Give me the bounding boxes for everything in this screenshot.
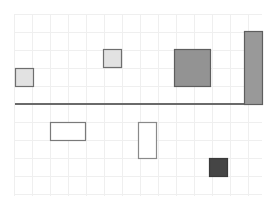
gray-bar-tall	[245, 32, 263, 105]
light-square-mid	[104, 50, 122, 68]
white-rect-tall	[139, 123, 157, 159]
gray-square-large	[175, 50, 211, 87]
diagram-canvas	[0, 0, 271, 204]
white-rect-wide	[51, 123, 86, 141]
dark-square	[210, 159, 228, 177]
light-square-left	[16, 69, 34, 87]
